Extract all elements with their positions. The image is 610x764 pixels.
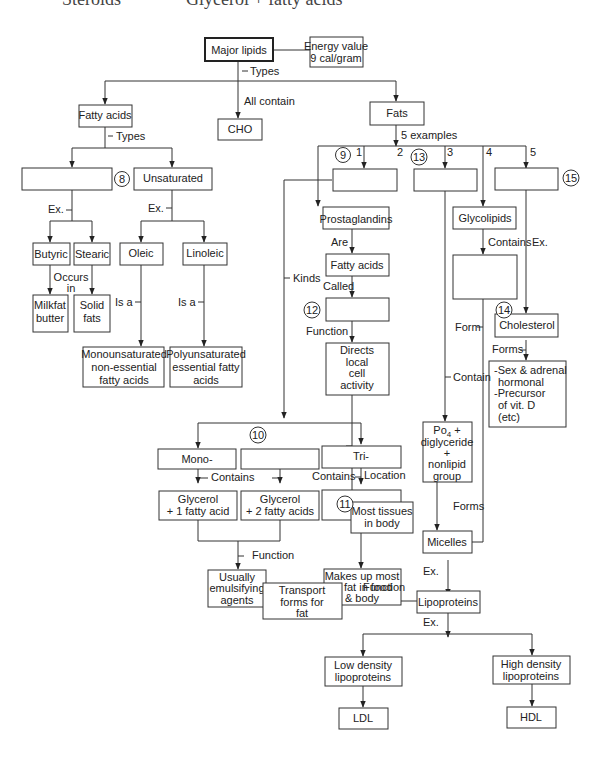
svg-text:Glycolipids: Glycolipids xyxy=(458,212,512,224)
node-fatty-acids-2: Fatty acids xyxy=(326,254,389,276)
node-glycerol-1-fatty-acid: Glycerol + 1 fatty acid xyxy=(159,491,237,520)
svg-text:Function: Function xyxy=(363,581,405,593)
svg-text:14: 14 xyxy=(498,304,510,316)
svg-text:Glycerol: Glycerol xyxy=(178,493,218,505)
node-blank-10 xyxy=(241,449,319,469)
svg-text:Transport: Transport xyxy=(279,584,326,596)
node-glycolipids: Glycolipids xyxy=(453,207,516,229)
node-milkfat-butter: Milkfat butter xyxy=(33,295,68,332)
svg-text:Function: Function xyxy=(306,325,348,337)
svg-text:Low density: Low density xyxy=(334,659,393,671)
svg-text:Lipoproteins: Lipoproteins xyxy=(418,596,478,608)
node-directs-local-cell-activity: Directs local cell activity xyxy=(326,343,389,395)
node-transport-forms: Transport forms for fat xyxy=(263,583,342,619)
svg-text:butter: butter xyxy=(36,312,64,324)
svg-text:Linoleic: Linoleic xyxy=(186,247,224,259)
svg-text:LDL: LDL xyxy=(353,712,373,724)
svg-text:Called: Called xyxy=(323,280,354,292)
node-high-density-lipoproteins: High density lipoproteins xyxy=(493,656,570,684)
svg-text:Location: Location xyxy=(364,469,406,481)
svg-text:1: 1 xyxy=(356,146,362,158)
svg-text:nonlipid: nonlipid xyxy=(428,458,466,470)
svg-text:Milkfat: Milkfat xyxy=(34,299,66,311)
svg-text:4: 4 xyxy=(486,146,492,158)
svg-text:15: 15 xyxy=(565,172,577,184)
svg-text:Are: Are xyxy=(331,236,348,248)
svg-text:Micelles: Micelles xyxy=(427,536,467,548)
node-ldl: LDL xyxy=(339,708,388,729)
svg-text:Contains: Contains xyxy=(488,236,532,248)
svg-text:(etc): (etc) xyxy=(498,411,520,423)
node-butyric: Butyric xyxy=(33,243,70,265)
svg-text:cell: cell xyxy=(349,367,366,379)
node-blank-8 xyxy=(22,168,112,190)
svg-text:Glycerol: Glycerol xyxy=(260,493,300,505)
svg-text:All contain: All contain xyxy=(244,95,295,107)
svg-text:in body: in body xyxy=(364,517,400,529)
svg-text:Forms: Forms xyxy=(453,500,485,512)
node-blank-glycolipid-contents xyxy=(453,255,517,299)
node-major-lipids: Major lipids xyxy=(205,38,273,61)
node-prostaglandins: Prostaglandins xyxy=(320,207,393,229)
svg-text:Is a: Is a xyxy=(178,296,197,308)
svg-text:Cholesterol: Cholesterol xyxy=(499,319,555,331)
svg-text:Forms: Forms xyxy=(492,343,524,355)
svg-text:emulsifying: emulsifying xyxy=(209,582,264,594)
node-po4-diglyceride: Po4 + diglyceride + nonlipid group xyxy=(421,422,474,482)
svg-text:2: 2 xyxy=(397,146,403,158)
svg-text:fatty acids: fatty acids xyxy=(99,374,149,386)
svg-text:+ 1 fatty acid: + 1 fatty acid xyxy=(167,505,230,517)
node-energy-value: Energy value 9 cal/gram xyxy=(304,37,368,67)
node-polyunsaturated: Polyunsaturated essential fatty acids xyxy=(166,347,246,387)
svg-text:Fatty acids: Fatty acids xyxy=(330,259,384,271)
node-usually-emulsifying: Usually emulsifying agents xyxy=(208,570,266,607)
svg-text:Polyunsaturated: Polyunsaturated xyxy=(166,348,246,360)
svg-text:Kinds: Kinds xyxy=(293,272,321,284)
svg-text:High density: High density xyxy=(501,658,562,670)
svg-text:Contains: Contains xyxy=(312,470,356,482)
svg-text:non-essential: non-essential xyxy=(91,361,156,373)
node-label: Major lipids xyxy=(211,44,267,56)
svg-text:10: 10 xyxy=(252,429,264,441)
svg-text:9 cal/gram: 9 cal/gram xyxy=(310,52,361,64)
node-blank-12 xyxy=(326,298,389,321)
circle-13: 13 xyxy=(411,149,427,165)
node-fats: Fats xyxy=(370,102,424,125)
svg-text:9: 9 xyxy=(340,149,346,161)
svg-text:Tri-: Tri- xyxy=(353,450,369,462)
node-tri: Tri- xyxy=(322,446,401,468)
svg-text:-Sex & adrenal: -Sex & adrenal xyxy=(494,364,567,376)
node-hdl: HDL xyxy=(507,707,556,728)
circle-8: 8 xyxy=(115,172,130,187)
svg-text:agents: agents xyxy=(220,594,254,606)
svg-text:in: in xyxy=(67,282,76,294)
svg-text:Monounsaturated: Monounsaturated xyxy=(81,348,167,360)
svg-text:Solid: Solid xyxy=(80,299,104,311)
svg-text:Ex.: Ex. xyxy=(532,236,548,248)
node-solid-fats: Solid fats xyxy=(74,295,110,332)
node-lipoproteins: Lipoproteins xyxy=(417,591,480,613)
node-blank-15 xyxy=(495,168,558,190)
svg-text:Function: Function xyxy=(252,549,294,561)
node-micelles: Micelles xyxy=(423,531,472,553)
circle-14: 14 xyxy=(496,302,512,318)
node-mono: Mono- xyxy=(158,449,236,469)
node-linoleic: Linoleic xyxy=(183,243,227,265)
svg-text:group: group xyxy=(433,470,461,482)
svg-text:Fats: Fats xyxy=(386,107,408,119)
circle-9: 9 xyxy=(336,148,351,163)
svg-text:12: 12 xyxy=(306,304,318,316)
lipid-concept-map: Major lipids Energy value 9 cal/gram Fat… xyxy=(0,0,610,764)
svg-text:Energy value: Energy value xyxy=(304,40,368,52)
node-unsaturated: Unsaturated xyxy=(134,168,212,190)
node-cho: CHO xyxy=(218,119,262,140)
svg-text:acids: acids xyxy=(193,374,219,386)
node-oleic: Oleic xyxy=(120,243,163,265)
svg-text:Butyric: Butyric xyxy=(34,248,68,260)
svg-text:+ 2 fatty acids: + 2 fatty acids xyxy=(246,505,315,517)
svg-text:activity: activity xyxy=(340,379,374,391)
svg-text:Form: Form xyxy=(455,321,481,333)
node-low-density-lipoproteins: Low density lipoproteins xyxy=(325,657,402,686)
svg-text:Contains: Contains xyxy=(211,471,255,483)
svg-text:Contain: Contain xyxy=(453,371,491,383)
